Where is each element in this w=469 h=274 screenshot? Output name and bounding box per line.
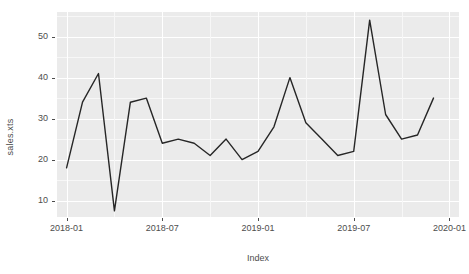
plot-panel xyxy=(57,12,459,217)
series-polyline xyxy=(67,20,434,211)
y-tick-label: 40 xyxy=(22,72,48,82)
y-tick-label: 10 xyxy=(22,195,48,205)
y-tick-label: 30 xyxy=(22,113,48,123)
x-tick-label: 2019-07 xyxy=(324,223,384,233)
y-tick-mark xyxy=(52,78,55,79)
x-tick-mark xyxy=(67,218,68,221)
y-tick-mark xyxy=(52,119,55,120)
x-tick-label: 2018-07 xyxy=(132,223,192,233)
x-tick-mark xyxy=(449,218,450,221)
line-chart: sales.xts 1020304050 2018-012018-072019-… xyxy=(0,0,469,274)
y-tick-label: 20 xyxy=(22,154,48,164)
x-tick-mark xyxy=(258,218,259,221)
x-tick-mark xyxy=(162,218,163,221)
y-axis-title: sales.xts xyxy=(0,0,20,274)
x-tick-mark xyxy=(354,218,355,221)
y-tick-label: 50 xyxy=(22,31,48,41)
y-tick-mark xyxy=(52,201,55,202)
x-tick-label: 2019-01 xyxy=(228,223,288,233)
y-tick-mark xyxy=(52,160,55,161)
x-tick-label: 2020-01 xyxy=(419,223,469,233)
x-tick-label: 2018-01 xyxy=(37,223,97,233)
y-tick-mark xyxy=(52,37,55,38)
x-axis-title: Index xyxy=(57,250,459,266)
series-line-sales-xts xyxy=(57,12,459,217)
